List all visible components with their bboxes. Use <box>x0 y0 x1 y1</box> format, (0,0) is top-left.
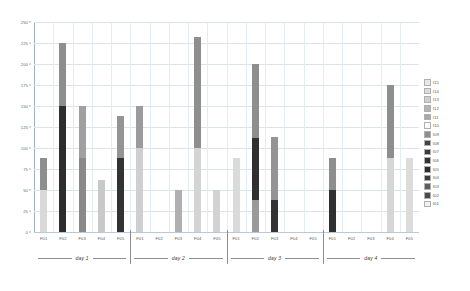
bar-segment[interactable] <box>406 158 413 232</box>
legend-label: I15 <box>433 80 439 85</box>
bar-stack[interactable] <box>79 106 86 232</box>
legend-label: I02 <box>433 193 439 198</box>
legend-item[interactable]: I08 <box>424 139 468 148</box>
bar-segment[interactable] <box>117 116 124 158</box>
legend-item[interactable]: I10 <box>424 121 468 130</box>
y-tick-mark <box>29 169 31 170</box>
bar-segment[interactable] <box>387 158 394 232</box>
legend-label: I10 <box>433 123 439 128</box>
bar-segment[interactable] <box>79 106 86 158</box>
bar-stack[interactable] <box>194 37 201 232</box>
legend-item[interactable]: I01 <box>424 200 468 209</box>
bar-slot <box>400 22 419 232</box>
y-tick-mark <box>29 232 31 233</box>
x-tick-label: F03 <box>73 233 92 247</box>
bar-stack[interactable] <box>233 158 240 232</box>
bar-segment[interactable] <box>233 158 240 232</box>
y-tick-mark <box>29 127 31 128</box>
bar-stack[interactable] <box>175 190 182 232</box>
y-tick-mark <box>29 85 31 86</box>
bar-segment[interactable] <box>252 64 259 138</box>
bar-segment[interactable] <box>79 158 86 232</box>
legend-item[interactable]: I02 <box>424 191 468 200</box>
x-tick-label: F05 <box>304 233 323 247</box>
x-axis-group-labels: day 1day 2day 3day 4 <box>34 248 419 268</box>
bar-segment[interactable] <box>117 158 124 232</box>
bar-stack[interactable] <box>213 190 220 232</box>
bar-segment[interactable] <box>136 106 143 148</box>
bar-segment[interactable] <box>329 190 336 232</box>
bar-segment[interactable] <box>271 137 278 200</box>
bar-slot <box>323 22 342 232</box>
legend-label: I11 <box>433 115 439 120</box>
group-label-cell: day 4 <box>323 248 419 268</box>
bar-slot <box>53 22 72 232</box>
legend-swatch <box>424 131 431 138</box>
y-tick-mark <box>29 106 31 107</box>
legend-item[interactable]: I14 <box>424 87 468 96</box>
legend-item[interactable]: I13 <box>424 95 468 104</box>
bar-segment[interactable] <box>59 43 66 106</box>
x-tick-label: F04 <box>188 233 207 247</box>
legend-swatch <box>424 122 431 129</box>
bar-slot <box>342 22 361 232</box>
x-tick-label: F01 <box>34 233 53 247</box>
x-tick-label: F01 <box>227 233 246 247</box>
legend-swatch <box>424 201 431 208</box>
bar-segment[interactable] <box>98 180 105 232</box>
bar-slot <box>130 22 149 232</box>
legend-item[interactable]: I15 <box>424 78 468 87</box>
bar-slot <box>227 22 246 232</box>
y-tick-label: 100 <box>21 146 28 151</box>
legend-swatch <box>424 157 431 164</box>
legend-label: I09 <box>433 132 439 137</box>
bar-segment[interactable] <box>40 190 47 232</box>
bar-stack[interactable] <box>59 43 66 232</box>
y-tick-label: 125 <box>21 125 28 130</box>
bar-segment[interactable] <box>59 106 66 232</box>
bar-segment[interactable] <box>213 190 220 232</box>
legend-item[interactable]: I05 <box>424 165 468 174</box>
bar-segment[interactable] <box>194 37 201 148</box>
legend-item[interactable]: I07 <box>424 148 468 157</box>
bar-segment[interactable] <box>40 158 47 190</box>
legend-swatch <box>424 192 431 199</box>
bar-segment[interactable] <box>271 200 278 232</box>
bar-stack[interactable] <box>136 106 143 232</box>
bar-stack[interactable] <box>252 64 259 232</box>
y-tick-label: 150 <box>21 104 28 109</box>
legend-item[interactable]: I12 <box>424 104 468 113</box>
bar-segment[interactable] <box>194 148 201 232</box>
legend-item[interactable]: I03 <box>424 182 468 191</box>
group-separator <box>227 230 228 264</box>
legend-label: I05 <box>433 167 439 172</box>
legend-swatch <box>424 114 431 121</box>
legend-item[interactable]: I04 <box>424 174 468 183</box>
legend-item[interactable]: I09 <box>424 130 468 139</box>
bar-segment[interactable] <box>175 190 182 232</box>
bar-segment[interactable] <box>387 85 394 158</box>
plot-area <box>34 22 419 232</box>
bar-stack[interactable] <box>406 158 413 232</box>
bar-stack[interactable] <box>117 116 124 232</box>
bar-stack[interactable] <box>387 85 394 232</box>
x-day-group: F01F02F03F04F05 <box>227 233 323 247</box>
x-tick-label: F01 <box>130 233 149 247</box>
bar-slot <box>111 22 130 232</box>
x-tick-label: F02 <box>53 233 72 247</box>
bar-stack[interactable] <box>329 158 336 232</box>
x-tick-label: F01 <box>323 233 342 247</box>
legend-label: I12 <box>433 106 439 111</box>
bar-segment[interactable] <box>252 138 259 200</box>
x-tick-label: F03 <box>265 233 284 247</box>
legend-item[interactable]: I11 <box>424 113 468 122</box>
legend-item[interactable]: I06 <box>424 156 468 165</box>
bar-stack[interactable] <box>271 137 278 232</box>
bar-segment[interactable] <box>329 158 336 190</box>
bar-segment[interactable] <box>252 200 259 232</box>
x-tick-label: F04 <box>92 233 111 247</box>
day-group <box>227 22 323 232</box>
bar-segment[interactable] <box>136 148 143 232</box>
bar-stack[interactable] <box>40 158 47 232</box>
bar-stack[interactable] <box>98 180 105 232</box>
